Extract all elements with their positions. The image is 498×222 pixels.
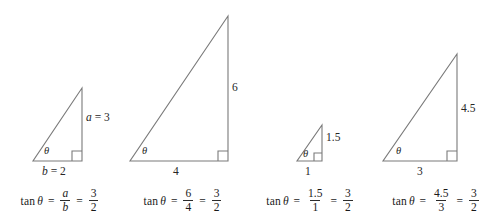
- eq3-result-numerator: 3: [343, 188, 353, 200]
- triangle-3-equation: tan θ = 1.5 1 = 3 2: [246, 189, 374, 214]
- eq2-equals-1: =: [171, 195, 178, 207]
- eq2-result-numerator: 3: [212, 188, 222, 200]
- eq3-angle: θ: [283, 195, 289, 207]
- triangle-figure-2: 6 4 θ tan θ = 6 4 = 3 2: [120, 0, 246, 222]
- eq1-result-denominator: 2: [89, 200, 99, 213]
- eq3-ratio-denominator: 1: [310, 200, 320, 213]
- eq4-ratio-numerator: 4.5: [432, 188, 450, 200]
- eq2-ratio-numerator: 6: [183, 188, 193, 200]
- eq1-ratio-numerator: a: [60, 188, 70, 200]
- eq4-ratio-denominator: 3: [436, 200, 446, 213]
- triangle-2-theta-label: θ: [142, 146, 147, 157]
- triangle-4-equation: tan θ = 4.5 3 = 3 2: [374, 189, 498, 214]
- eq3-equals-2: =: [330, 195, 337, 207]
- eq1-angle: θ: [37, 195, 43, 207]
- eq2-angle: θ: [160, 195, 166, 207]
- eq4-result-fraction: 3 2: [469, 188, 479, 213]
- triangle-1-outline: [33, 88, 82, 161]
- eq4-equals-2: =: [456, 195, 463, 207]
- triangle-4-adjacent-label: 3: [417, 166, 423, 178]
- eq3-ratio-fraction: 1.5 1: [306, 188, 324, 213]
- triangle-2-adjacent-label: 4: [173, 166, 179, 178]
- triangle-figure-3: 1.5 1 θ tan θ = 1.5 1 = 3 2: [246, 0, 374, 222]
- triangle-3-outline: [297, 125, 322, 161]
- eq4-ratio-fraction: 4.5 3: [432, 188, 450, 213]
- triangle-2-equation: tan θ = 6 4 = 3 2: [120, 189, 246, 214]
- triangle-2-outline: [130, 16, 228, 161]
- eq1-result-numerator: 3: [89, 188, 99, 200]
- eq2-equals-2: =: [199, 195, 206, 207]
- eq2-result-denominator: 2: [212, 200, 222, 213]
- eq4-result-numerator: 3: [469, 188, 479, 200]
- triangle-1-opposite-label: a = 3: [86, 112, 110, 124]
- triangle-1-adjacent-value: 2: [60, 165, 66, 177]
- triangle-1-equation: tan θ = a b = 3 2: [0, 189, 120, 214]
- eq4-result-denominator: 2: [469, 200, 479, 213]
- eq4-equals-1: =: [420, 195, 427, 207]
- right-angle-marker-3: [314, 153, 322, 161]
- eq3-result-fraction: 3 2: [343, 188, 353, 213]
- figure-canvas: a = 3 b = 2 θ tan θ = a b = 3 2 6 4: [0, 0, 498, 222]
- triangle-1-opposite-value: 3: [104, 111, 110, 123]
- triangle-4-opposite-label: 4.5: [461, 103, 475, 115]
- triangle-3-adjacent-label: 1: [305, 166, 311, 178]
- eq2-ratio-fraction: 6 4: [183, 188, 193, 213]
- triangle-1-adjacent-label: b = 2: [42, 166, 66, 178]
- right-angle-marker-4: [447, 151, 457, 161]
- triangle-figure-4: 4.5 3 θ tan θ = 4.5 3 = 3 2: [374, 0, 498, 222]
- eq1-equals-2: =: [76, 195, 83, 207]
- eq3-equals-1: =: [294, 195, 301, 207]
- right-angle-marker-1: [72, 151, 82, 161]
- eq3-function: tan: [266, 195, 281, 207]
- eq4-angle: θ: [409, 195, 415, 207]
- eq2-result-fraction: 3 2: [212, 188, 222, 213]
- eq2-ratio-denominator: 4: [183, 200, 193, 213]
- eq4-function: tan: [392, 195, 407, 207]
- eq3-ratio-numerator: 1.5: [306, 188, 324, 200]
- right-angle-marker-2: [218, 151, 228, 161]
- eq1-function: tan: [21, 195, 36, 207]
- eq3-result-denominator: 2: [343, 200, 353, 213]
- eq1-ratio-fraction: a b: [60, 188, 70, 213]
- triangle-1-theta-label: θ: [44, 146, 49, 157]
- triangle-4-theta-label: θ: [396, 146, 401, 157]
- triangle-figure-1: a = 3 b = 2 θ tan θ = a b = 3 2: [0, 0, 120, 222]
- eq1-ratio-denominator: b: [60, 200, 70, 213]
- eq2-function: tan: [144, 195, 159, 207]
- triangle-3-theta-label: θ: [303, 149, 308, 160]
- triangle-4-outline: [383, 54, 457, 161]
- triangle-3-opposite-label: 1.5: [326, 132, 340, 144]
- triangle-2-opposite-label: 6: [232, 82, 238, 94]
- eq1-result-fraction: 3 2: [89, 188, 99, 213]
- eq1-equals-1: =: [48, 195, 55, 207]
